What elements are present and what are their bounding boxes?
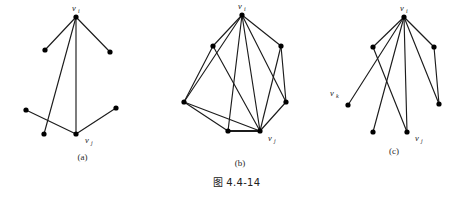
graph-b-edges	[184, 15, 286, 131]
graph-a-nodes	[23, 14, 118, 136]
edge	[242, 15, 281, 46]
edge	[26, 110, 76, 134]
vertex	[278, 43, 283, 48]
vertex-vi	[239, 12, 244, 17]
vertex	[210, 43, 215, 48]
graph-panel-c: v i v k v j (c)	[315, 0, 473, 175]
vertex	[23, 107, 28, 112]
edge	[76, 17, 110, 52]
subcaption-a: (a)	[0, 152, 165, 162]
edge	[434, 47, 439, 104]
edge	[348, 17, 404, 105]
label-vj: v	[415, 133, 419, 143]
label-vj-subscript: j	[90, 140, 93, 146]
vertex	[370, 44, 375, 49]
vertex	[181, 99, 186, 104]
graph-panel-b: v i v j (b)	[165, 0, 315, 175]
label-vi: v	[72, 3, 76, 13]
label-vk: v	[330, 88, 334, 98]
graph-panel-a: v i v j (a)	[0, 0, 165, 175]
vertex	[41, 131, 46, 136]
vertex-vi	[73, 14, 78, 19]
graph-a-svg: v i v j	[0, 0, 165, 160]
edge	[213, 15, 242, 46]
vertex-vj	[404, 129, 409, 134]
vertex	[431, 44, 436, 49]
edge	[260, 46, 281, 131]
vertex	[436, 101, 441, 106]
edge	[373, 17, 404, 47]
label-vj: v	[268, 133, 272, 143]
label-vk-subscript: k	[336, 93, 339, 99]
label-vi-subscript: i	[406, 8, 408, 14]
vertex-vi	[401, 14, 406, 19]
edge	[184, 46, 213, 102]
label-vj-subscript: j	[420, 138, 423, 144]
edge	[404, 17, 439, 104]
label-vi: v	[400, 3, 404, 13]
graph-c-svg: v i v k v j	[315, 0, 473, 160]
edge	[404, 17, 407, 132]
vertex	[113, 105, 118, 110]
graph-b-svg: v i v j	[165, 0, 315, 160]
label-vi-subscript: i	[244, 6, 246, 12]
edge	[76, 108, 116, 134]
vertex	[107, 49, 112, 54]
figure-sheet: v i v j (a)	[0, 0, 473, 199]
vertex	[42, 47, 47, 52]
vertex-vk	[345, 102, 350, 107]
label-vi: v	[238, 1, 242, 11]
vertex-vj	[73, 131, 78, 136]
subcaption-b: (b)	[165, 158, 315, 168]
edge	[373, 17, 404, 132]
subcaption-c: (c)	[315, 146, 473, 156]
vertex-vj	[257, 128, 262, 133]
label-vj: v	[85, 135, 89, 145]
vertex	[283, 99, 288, 104]
graph-c-edges	[348, 17, 439, 132]
edge	[404, 17, 434, 47]
graph-a-edges	[26, 17, 116, 134]
label-vi-subscript: i	[78, 8, 80, 14]
vertex	[370, 129, 375, 134]
vertex	[225, 128, 230, 133]
label-vj-subscript: j	[273, 138, 276, 144]
edge	[373, 47, 407, 132]
figure-main-caption: 图 4.4-14	[0, 174, 473, 189]
